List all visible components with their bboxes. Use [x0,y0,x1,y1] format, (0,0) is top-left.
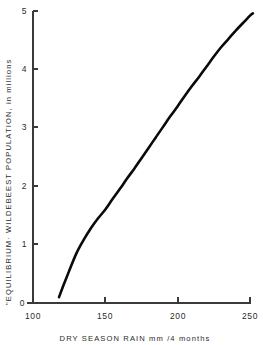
y-tick-label-5: 5 [22,6,27,16]
x-axis: 100 150 200 250 DRY SEASON RAIN mm /4 mo… [25,297,258,343]
x-axis-title: DRY SEASON RAIN mm /4 months [60,334,211,343]
y-tick-label-1: 1 [22,239,27,249]
x-tick-label-200: 200 [170,311,186,321]
y-axis: 5 4 3 2 1 0 "EQUILIBRIUM· WILDEBEEST POP… [4,6,38,308]
x-tick-label-100: 100 [25,311,41,321]
y-tick-label-3: 3 [22,122,27,132]
line-chart-svg: 5 4 3 2 1 0 "EQUILIBRIUM· WILDEBEEST POP… [0,0,263,345]
equilibrium-population-curve [59,13,253,297]
chart-figure: 5 4 3 2 1 0 "EQUILIBRIUM· WILDEBEEST POP… [0,0,263,345]
y-tick-label-0: 0 [20,298,25,308]
y-tick-label-2: 2 [22,181,27,191]
x-tick-label-150: 150 [97,311,113,321]
y-axis-title: "EQUILIBRIUM· WILDEBEEST POPULATION, in … [4,59,13,305]
data-series-group [59,13,253,297]
x-tick-label-250: 250 [242,311,258,321]
y-tick-label-4: 4 [22,64,27,74]
